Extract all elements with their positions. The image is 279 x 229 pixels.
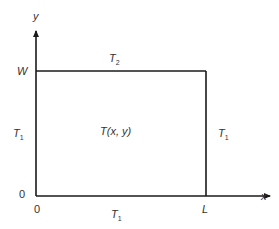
left-boundary-temp: T1 <box>13 127 24 141</box>
x-origin-label: 0 <box>34 203 40 215</box>
heat-conduction-diagram: y x W L 0 0 T2 T1 T1 T1 T(x, y) <box>0 0 279 229</box>
right-boundary-temp: T1 <box>218 127 229 141</box>
width-label: L <box>202 203 208 215</box>
interior-temperature-label: T(x, y) <box>100 125 131 137</box>
top-boundary-temp: T2 <box>109 52 120 66</box>
y-axis-label: y <box>32 10 40 22</box>
x-axis-label: x <box>260 190 267 202</box>
bottom-boundary-temp: T1 <box>111 208 122 222</box>
y-origin-label: 0 <box>19 188 25 200</box>
height-label: W <box>17 65 29 77</box>
